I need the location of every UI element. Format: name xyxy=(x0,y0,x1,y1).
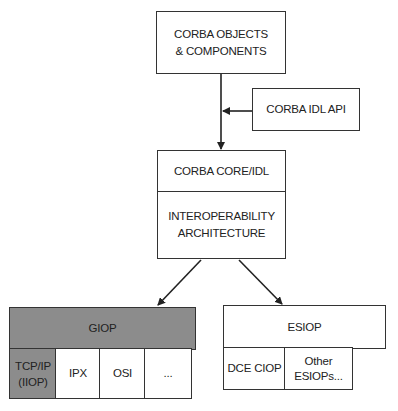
giop-box: GIOP xyxy=(9,307,196,350)
giop-label: GIOP xyxy=(89,320,117,337)
corba-objects-line1: CORBA OBJECTS xyxy=(174,26,268,43)
arrow-core-to-giop xyxy=(158,260,201,305)
transport-osi: OSI xyxy=(99,348,146,399)
ellipsis-label: ... xyxy=(164,365,173,382)
transport-ellipsis: ... xyxy=(144,348,192,399)
interoperability-line1: INTEROPERABILITY xyxy=(168,208,275,225)
protocol-other-esiops: Other ESIOPs... xyxy=(284,347,353,390)
corba-objects-line2: & COMPONENTS xyxy=(176,43,267,60)
corba-core-idl-label: CORBA CORE/IDL xyxy=(174,163,269,180)
tcpip-line1: TCP/IP xyxy=(15,358,51,374)
corba-idl-api-box: CORBA IDL API xyxy=(252,88,360,131)
transport-ipx: IPX xyxy=(55,348,101,399)
interoperability-architecture-box: INTEROPERABILITY ARCHITECTURE xyxy=(157,191,286,259)
corba-core-idl-box: CORBA CORE/IDL xyxy=(157,150,286,193)
corba-idl-api-label: CORBA IDL API xyxy=(266,101,345,118)
interoperability-line2: ARCHITECTURE xyxy=(178,225,266,242)
osi-label: OSI xyxy=(113,365,132,382)
esiop-label: ESIOP xyxy=(287,319,321,336)
protocol-dce-ciop: DCE CIOP xyxy=(223,347,286,390)
transport-tcpip-iiop: TCP/IP (IIOP) xyxy=(9,348,57,399)
dce-ciop-label: DCE CIOP xyxy=(228,360,282,377)
esiop-box: ESIOP xyxy=(223,305,386,349)
arrow-core-to-esiop xyxy=(239,260,282,304)
tcpip-line2: (IIOP) xyxy=(18,374,47,390)
ipx-label: IPX xyxy=(69,365,87,382)
other-esiops-line1: Other xyxy=(305,354,333,369)
corba-objects-box: CORBA OBJECTS & COMPONENTS xyxy=(156,11,286,74)
other-esiops-line2: ESIOPs... xyxy=(294,369,343,384)
